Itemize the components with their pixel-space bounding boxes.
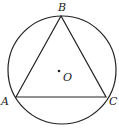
label-o: O	[63, 71, 72, 84]
label-b: B	[57, 1, 66, 14]
geometry-diagram: B A C O	[0, 0, 119, 136]
circumcircle	[8, 16, 116, 124]
triangle-abc	[16, 16, 106, 97]
label-c: C	[109, 95, 118, 108]
label-a: A	[0, 95, 9, 108]
center-point-o	[58, 70, 61, 73]
